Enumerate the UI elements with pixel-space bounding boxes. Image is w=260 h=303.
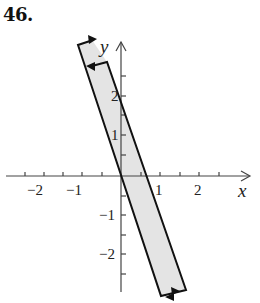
x-tick-label: −1 xyxy=(66,182,82,198)
y-tick-label: 1 xyxy=(111,127,119,143)
x-tick-label: −2 xyxy=(27,182,43,198)
x-axis-label: x xyxy=(237,180,247,201)
y-axis-label: y xyxy=(98,36,109,57)
y-tick-label: −2 xyxy=(99,246,115,262)
x-tick-label: 1 xyxy=(155,182,163,198)
y-tick-label: 2 xyxy=(111,88,119,104)
shaded-region-main xyxy=(78,45,186,296)
graph: −2 −1 1 2 2 1 −1 −2 x y xyxy=(0,0,260,303)
y-tick-label: −1 xyxy=(99,207,115,223)
x-tick-label: 2 xyxy=(194,182,202,198)
